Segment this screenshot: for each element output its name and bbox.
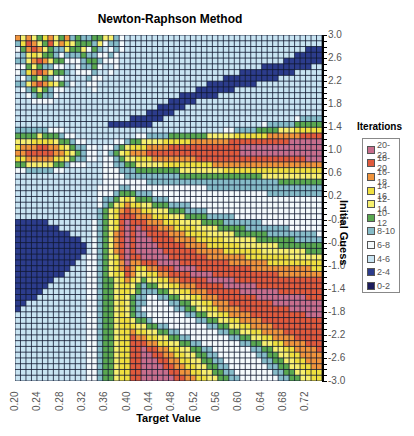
y-minor-tick (322, 185, 327, 186)
legend-swatch (367, 159, 375, 167)
x-tick-label: 0.72 (300, 392, 310, 411)
x-tick-label: 0.64 (256, 392, 266, 411)
y-minor-tick (322, 335, 327, 336)
legend-swatch (367, 255, 375, 263)
x-tick-label: 0.24 (32, 392, 42, 411)
y-tick-label: -1.4 (328, 284, 345, 294)
y-minor-tick (322, 35, 327, 36)
y-minor-tick (322, 283, 327, 284)
y-minor-tick (322, 52, 327, 53)
y-minor-tick (322, 93, 327, 94)
x-axis-title: Target Value (15, 412, 322, 424)
x-tick-label: 0.32 (77, 392, 87, 411)
legend-item: 2-4 (363, 265, 399, 279)
x-tick-label: 0.44 (144, 392, 154, 411)
y-minor-tick (322, 58, 327, 59)
y-tick-label: 0.6 (328, 168, 342, 178)
x-tick-label: 0.52 (189, 392, 199, 411)
y-minor-tick (322, 329, 327, 330)
legend-item: 6-8 (363, 238, 399, 252)
y-minor-tick (322, 266, 327, 267)
y-minor-tick (322, 110, 327, 111)
legend-item: 4-6 (363, 252, 399, 266)
x-tick-label: 0.68 (278, 392, 288, 411)
legend-label: 6-8 (377, 240, 390, 250)
y-tick-label: -2.6 (328, 353, 345, 363)
y-minor-tick (322, 369, 327, 370)
heatmap-plot-area (15, 35, 322, 381)
y-minor-tick (322, 208, 327, 209)
y-tick-label: 2.2 (328, 76, 342, 86)
heatmap-grid (15, 35, 322, 381)
legend-swatch (367, 146, 375, 154)
y-tick-label: 1.8 (328, 99, 342, 109)
y-minor-tick (322, 225, 327, 226)
y-minor-tick (322, 133, 327, 134)
y-minor-tick (322, 196, 327, 197)
y-minor-tick (322, 271, 327, 272)
y-minor-tick (322, 323, 327, 324)
y-minor-tick (322, 98, 327, 99)
y-minor-tick (322, 47, 327, 48)
y-minor-tick (322, 41, 327, 42)
y-tick-label: 2.6 (328, 53, 342, 63)
x-tick-label: 0.20 (10, 392, 20, 411)
chart-title: Newton-Raphson Method (0, 12, 340, 26)
y-tick-label: 1.4 (328, 122, 342, 132)
legend-label: 10-12 (377, 208, 399, 228)
x-tick-label: 0.48 (166, 392, 176, 411)
y-minor-tick (322, 300, 327, 301)
legend-label: 0-2 (377, 281, 390, 291)
legend-swatch (367, 268, 375, 276)
y-tick-label: -1.8 (328, 307, 345, 317)
legend: 20-2218-2016-1814-1612-1410-128-106-84-6… (362, 138, 400, 293)
y-minor-tick (322, 318, 327, 319)
y-minor-tick (322, 122, 327, 123)
y-minor-tick (322, 220, 327, 221)
y-tick-label: -3.0 (328, 376, 345, 386)
y-minor-tick (322, 173, 327, 174)
x-tick-label: 0.40 (122, 392, 132, 411)
x-tick-label: 0.60 (233, 392, 243, 411)
y-minor-tick (322, 214, 327, 215)
y-minor-tick (322, 64, 327, 65)
y-minor-tick (322, 75, 327, 76)
y-minor-tick (322, 116, 327, 117)
y-minor-tick (322, 306, 327, 307)
legend-item: 0-2 (363, 279, 399, 293)
y-minor-tick (322, 145, 327, 146)
legend-swatch (367, 227, 375, 235)
y-minor-tick (322, 231, 327, 232)
legend-swatch (367, 187, 375, 195)
legend-item: 10-12 (363, 211, 399, 225)
legend-swatch (367, 241, 375, 249)
legend-item: 8-10 (363, 225, 399, 239)
y-minor-tick (322, 375, 327, 376)
y-minor-tick (322, 364, 327, 365)
y-minor-tick (322, 341, 327, 342)
legend-title: Iterations (357, 121, 402, 132)
y-minor-tick (322, 162, 327, 163)
x-tick-label: 0.28 (55, 392, 65, 411)
y-minor-tick (322, 277, 327, 278)
y-minor-tick (322, 260, 327, 261)
x-tick-label: 0.56 (211, 392, 221, 411)
y-minor-tick (322, 312, 327, 313)
legend-swatch (367, 282, 375, 290)
y-minor-tick (322, 248, 327, 249)
y-minor-tick (322, 295, 327, 296)
legend-swatch (367, 200, 375, 208)
y-minor-tick (322, 243, 327, 244)
y-tick-label: 3.0 (328, 30, 342, 40)
y-minor-tick (322, 81, 327, 82)
y-minor-tick (322, 191, 327, 192)
y-minor-tick (322, 352, 327, 353)
legend-swatch (367, 214, 375, 222)
y-minor-tick (322, 254, 327, 255)
y-axis-title: Initial Guess (338, 200, 350, 265)
y-minor-tick (322, 87, 327, 88)
y-minor-tick (322, 104, 327, 105)
y-tick-label: -2.2 (328, 330, 345, 340)
legend-label: 2-4 (377, 267, 390, 277)
y-minor-tick (322, 179, 327, 180)
